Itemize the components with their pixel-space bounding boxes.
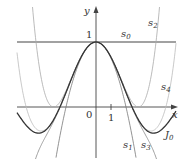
y-tick-label: 1 bbox=[86, 29, 92, 40]
bessel-approximation-diagram: y x 0 1 1 s0 s2 s4 J0 s1 s3 bbox=[0, 0, 191, 165]
y-axis-label: y bbox=[83, 5, 90, 16]
curve-label-s2: s2 bbox=[148, 17, 158, 30]
curve-label-j0: J0 bbox=[163, 129, 174, 142]
x-tick-label: 1 bbox=[108, 112, 114, 123]
curve-label-s3: s3 bbox=[141, 139, 151, 152]
plot-area: y x 0 1 1 s0 s2 s4 J0 s1 s3 bbox=[0, 0, 191, 165]
curve-label-s4: s4 bbox=[161, 81, 171, 94]
curve-s4 bbox=[17, 42, 176, 131]
x-axis-label: x bbox=[172, 109, 178, 120]
curve-j0 bbox=[17, 42, 176, 133]
curve-label-s0: s0 bbox=[121, 28, 131, 41]
curve-label-s1: s1 bbox=[123, 139, 133, 152]
origin-label: 0 bbox=[86, 109, 92, 120]
y-axis-arrow-icon bbox=[94, 6, 99, 13]
